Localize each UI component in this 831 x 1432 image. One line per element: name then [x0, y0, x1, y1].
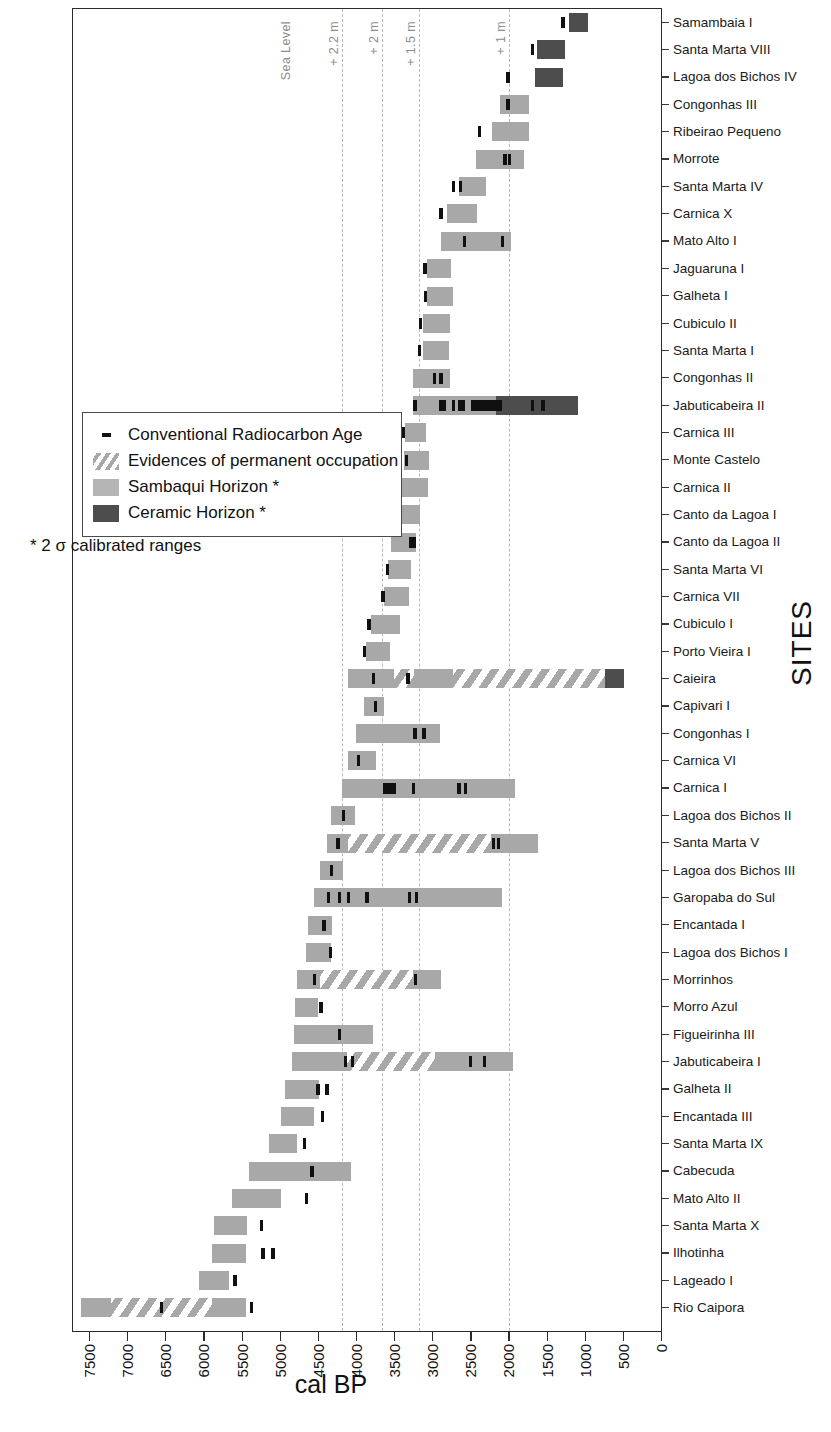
radiocarbon-age-marker [506, 72, 509, 83]
bar-segment-sambaqui [476, 150, 524, 169]
radiocarbon-age-marker [463, 236, 466, 247]
site-label: Figueirinha III [673, 1028, 755, 1042]
radiocarbon-age-marker [464, 783, 467, 794]
chart-row [73, 665, 661, 692]
radiocarbon-age-marker [365, 892, 368, 903]
y-axis-tick [662, 432, 669, 433]
site-label: Carnica III [673, 426, 735, 440]
bar-segment-sambaqui [232, 1189, 281, 1208]
radiocarbon-age-marker [433, 373, 436, 384]
x-axis-tick [203, 1332, 204, 1341]
y-axis-tick [662, 1225, 669, 1226]
site-label: Lageado I [673, 1274, 733, 1288]
site-label: Lagoa dos Bichos II [673, 809, 792, 823]
radiocarbon-age-marker [413, 400, 416, 411]
site-label: Morro Azul [673, 1000, 738, 1014]
radiocarbon-age-marker [478, 126, 481, 137]
chart-row [73, 1212, 661, 1239]
radiocarbon-age-marker [338, 1029, 341, 1040]
x-axis: 7500700065006000550050004500400035003000… [72, 1332, 662, 1333]
radiocarbon-age-marker [508, 154, 511, 165]
hatch-swatch-icon [93, 453, 119, 470]
site-label: Capivari I [673, 699, 730, 713]
y-axis-tick [662, 1198, 669, 1199]
legend-footnote: * 2 σ calibrated ranges [30, 536, 201, 556]
radiocarbon-age-marker [381, 591, 384, 602]
site-label: Rio Caipora [673, 1301, 744, 1315]
site-label: Encantada I [673, 918, 745, 932]
chart-row [73, 939, 661, 966]
site-label: Carnica VI [673, 754, 736, 768]
chart-row [73, 720, 661, 747]
site-label: Cabecuda [673, 1164, 735, 1178]
site-label: Carnica I [673, 781, 727, 795]
chart-row [73, 200, 661, 227]
radiocarbon-age-marker [233, 1275, 236, 1286]
bar-segment-sambaqui [308, 916, 332, 935]
radiocarbon-age-marker [531, 400, 534, 411]
bar-segment-sambaqui [348, 751, 376, 770]
y-axis-tick [662, 651, 669, 652]
y-axis-tick [662, 131, 669, 132]
y-axis-tick [662, 76, 669, 77]
chart-row [73, 611, 661, 638]
bar-segment-sambaqui [212, 1244, 246, 1263]
bar-segment-ceramic [569, 13, 588, 32]
y-axis-tick [662, 268, 669, 269]
y-axis-tick [662, 240, 669, 241]
bar-segment-sambaqui [427, 287, 453, 306]
bar-segment-hatch [348, 834, 491, 853]
site-label: Monte Castelo [673, 453, 760, 467]
chart-row [73, 966, 661, 993]
y-axis-tick [662, 49, 669, 50]
chart-row [73, 775, 661, 802]
radiocarbon-age-marker [419, 318, 422, 329]
y-axis-tick [662, 1252, 669, 1253]
bar-segment-sambaqui [366, 642, 390, 661]
site-label: Congonhas II [673, 371, 753, 385]
legend-item-occupation: Evidences of permanent occupation [93, 448, 391, 474]
radiocarbon-age-marker [260, 1220, 263, 1231]
bar-segment-ceramic [537, 40, 565, 59]
radiocarbon-age-marker [305, 1193, 308, 1204]
site-label: Cubiculo I [673, 617, 733, 631]
radiocarbon-age-marker [342, 810, 345, 821]
radiocarbon-age-marker [439, 373, 442, 384]
site-label: Lagoa dos Bichos IV [673, 70, 797, 84]
chart-row [73, 228, 661, 255]
chart-row [73, 1076, 661, 1103]
legend-label-ceramic: Ceramic Horizon * [128, 503, 266, 523]
site-label: Santa Marta IX [673, 1137, 763, 1151]
bar-segment-sambaqui [435, 1052, 513, 1071]
y-axis-tick [662, 569, 669, 570]
radiocarbon-age-marker [321, 1111, 324, 1122]
chart-row [73, 583, 661, 610]
site-label: Caieira [673, 672, 716, 686]
bar-segment-sambaqui [297, 970, 321, 989]
chart-row [73, 1130, 661, 1157]
bar-segment-sambaqui [269, 1134, 296, 1153]
radiocarbon-age-marker [406, 673, 409, 684]
radiocarbon-age-marker [499, 400, 502, 411]
y-axis-tick [662, 678, 669, 679]
site-label: Ilhotinha [673, 1246, 724, 1260]
radiocarbon-age-marker [414, 974, 417, 985]
y-axis-tick [662, 405, 669, 406]
radiocarbon-age-marker [439, 208, 442, 219]
x-axis-tick [356, 1332, 357, 1341]
radiocarbon-age-marker [541, 400, 544, 411]
site-label: Canto da Lagoa I [673, 508, 777, 522]
radiocarbon-age-marker [329, 947, 332, 958]
chart-row [73, 638, 661, 665]
chart-row [73, 830, 661, 857]
radiocarbon-age-marker [310, 1166, 313, 1177]
bar-segment-sambaqui [405, 423, 426, 442]
y-axis-tick [662, 514, 669, 515]
radiocarbon-age-marker [531, 44, 534, 55]
radiocarbon-age-marker [367, 619, 370, 630]
bar-segment-sambaqui [294, 1025, 373, 1044]
chart-row [73, 283, 661, 310]
site-label: Garopaba do Sul [673, 891, 775, 905]
ceramic-swatch-icon [93, 505, 119, 522]
site-label: Santa Marta IV [673, 180, 763, 194]
